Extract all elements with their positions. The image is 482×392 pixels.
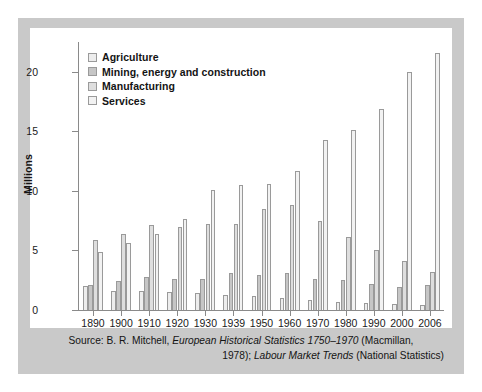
- bar: [88, 285, 93, 310]
- legend-label: Agriculture: [102, 51, 159, 63]
- y-axis-tick: [72, 191, 78, 192]
- y-axis-tick: [72, 250, 78, 251]
- bar: [346, 237, 351, 310]
- bar-group: [364, 42, 384, 310]
- x-axis-tick-label: 1910: [138, 318, 161, 329]
- x-axis-tick: [430, 311, 431, 316]
- x-axis-tick-label: 1970: [306, 318, 329, 329]
- x-axis-tick-label: 1939: [222, 318, 245, 329]
- bar: [178, 227, 183, 310]
- x-axis-tick-label: 2000: [390, 318, 413, 329]
- bar: [144, 277, 149, 310]
- x-axis-tick-label: 1990: [362, 318, 385, 329]
- bar: [341, 280, 346, 310]
- legend-label: Manufacturing: [102, 80, 175, 92]
- caption-line-2: 1978); Labour Market Trends (National St…: [30, 349, 452, 364]
- bar: [290, 205, 295, 310]
- bar: [313, 279, 318, 310]
- bar: [379, 109, 384, 310]
- bar: [374, 250, 379, 310]
- bar: [121, 234, 126, 310]
- legend-swatch-icon: [88, 67, 97, 76]
- bar: [280, 298, 285, 310]
- caption-line2-title: Labour Market Trends: [254, 350, 353, 361]
- legend-item: Agriculture: [88, 50, 266, 65]
- bar: [364, 303, 369, 310]
- legend-swatch-icon: [88, 53, 97, 62]
- x-axis-tick-label: 1890: [81, 318, 104, 329]
- legend-item: Manufacturing: [88, 79, 266, 94]
- bar: [323, 140, 328, 310]
- bar: [111, 291, 116, 310]
- x-axis-tick: [262, 311, 263, 316]
- bar: [425, 285, 430, 310]
- x-axis-tick: [233, 311, 234, 316]
- bar: [200, 279, 205, 310]
- bar-group: [280, 42, 300, 310]
- bar: [234, 224, 239, 310]
- x-axis-tick: [346, 311, 347, 316]
- legend-swatch-icon: [88, 82, 97, 91]
- x-axis-tick-label: 1980: [334, 318, 357, 329]
- y-axis-tick: [72, 131, 78, 132]
- bar-group: [420, 42, 440, 310]
- x-axis-tick-label: 1920: [166, 318, 189, 329]
- bar: [262, 209, 267, 310]
- y-axis-tick: [72, 72, 78, 73]
- bar: [239, 185, 244, 310]
- legend-label: Services: [102, 95, 146, 107]
- y-axis-tick-label: 5: [0, 245, 38, 256]
- bar-group: [336, 42, 356, 310]
- bar: [252, 296, 257, 310]
- bar-group: [308, 42, 328, 310]
- bar: [397, 287, 402, 310]
- bar: [435, 53, 440, 310]
- legend-swatch-icon: [88, 96, 97, 105]
- x-axis-tick: [149, 311, 150, 316]
- bar: [211, 190, 216, 310]
- bar: [172, 279, 177, 310]
- y-axis-label: Millions: [22, 154, 34, 194]
- bar: [83, 286, 88, 310]
- x-axis-tick-label: 1960: [278, 318, 301, 329]
- x-axis-tick: [318, 311, 319, 316]
- x-axis-tick: [374, 311, 375, 316]
- caption-line1-suffix: (Macmillan,: [359, 335, 414, 346]
- legend-label: Mining, energy and construction: [102, 66, 266, 78]
- caption-line-1: Source: B. R. Mitchell, European Histori…: [30, 334, 452, 349]
- caption-line1-prefix: Source: B. R. Mitchell,: [69, 335, 173, 346]
- caption-line2-suffix: (National Statistics): [353, 350, 444, 361]
- bar: [308, 300, 313, 310]
- bar: [369, 284, 374, 310]
- bar: [295, 171, 300, 310]
- bar: [430, 272, 435, 310]
- x-axis-tick: [177, 311, 178, 316]
- y-axis-tick-label: 15: [0, 126, 38, 137]
- legend-item: Mining, energy and construction: [88, 65, 266, 80]
- bar: [420, 305, 425, 310]
- x-axis-tick-label: 1900: [109, 318, 132, 329]
- bar: [155, 234, 160, 310]
- bar: [267, 184, 272, 310]
- bar: [318, 221, 323, 310]
- caption-line2-prefix: 1978);: [222, 350, 254, 361]
- x-axis-tick-label: 1950: [250, 318, 273, 329]
- bar: [93, 240, 98, 310]
- y-axis-tick-label: 20: [0, 67, 38, 78]
- bar: [149, 225, 154, 310]
- bar: [229, 273, 234, 310]
- bar: [407, 72, 412, 310]
- plot-area: 05101520 Millions 1890190019101920193019…: [30, 28, 452, 328]
- bar: [402, 261, 407, 310]
- x-axis-tick-label: 1930: [194, 318, 217, 329]
- bar: [206, 224, 211, 310]
- x-axis-tick: [93, 311, 94, 316]
- bar: [98, 252, 103, 310]
- bar: [139, 291, 144, 310]
- bar: [183, 219, 188, 310]
- bar: [195, 293, 200, 310]
- bar: [351, 130, 356, 310]
- x-axis-tick-label: 2006: [418, 318, 441, 329]
- x-axis-tick: [290, 311, 291, 316]
- bar: [167, 292, 172, 310]
